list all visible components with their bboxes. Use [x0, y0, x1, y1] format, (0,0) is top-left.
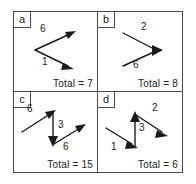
- panel-d-arrow-label-1: 1: [111, 142, 117, 152]
- panel-c-arrow-label-6a: 6: [27, 104, 33, 114]
- panel-d-arrow-label-2: 2: [152, 103, 158, 113]
- vector-diagram-grid: a 6 1 Total = 7 b 2: [13, 11, 183, 173]
- panel-d-arrow-label-3: 3: [139, 123, 145, 133]
- panel-a-arrow-label-1: 1: [42, 57, 48, 67]
- panel-b-arrow-label-2: 2: [141, 22, 147, 32]
- panel-a-total: Total = 7: [53, 78, 93, 89]
- panel-c-arrow-label-3: 3: [58, 120, 64, 130]
- panel-b: b 2 6 Total = 8: [98, 12, 182, 92]
- panel-a-arrow-label-6: 6: [40, 24, 46, 34]
- panel-d-total: Total = 6: [138, 159, 178, 170]
- panel-c-arrow-label-6b: 6: [63, 142, 69, 152]
- panel-b-arrow-label-6: 6: [133, 60, 139, 70]
- panel-d: d 1 3 2 Total = 6: [98, 92, 182, 172]
- panel-b-total: Total = 8: [138, 78, 178, 89]
- panel-c: c 6 3 6 Total = 15: [14, 92, 98, 172]
- panel-c-total: Total = 15: [47, 159, 93, 170]
- panel-a: a 6 1 Total = 7: [14, 12, 98, 92]
